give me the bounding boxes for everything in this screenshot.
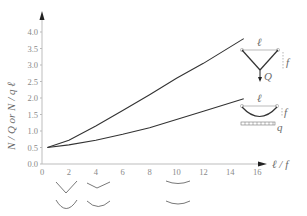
x-tick-label: 14: [226, 167, 235, 177]
x-axis-label: ℓ / f: [272, 158, 290, 170]
y-tick-label: 2.5: [27, 77, 38, 87]
y-tick-label: 2.0: [27, 93, 38, 103]
x-tick-label: 4: [94, 167, 99, 177]
x-tick-label: 6: [121, 167, 125, 177]
series-distributed-load-curve: [47, 99, 243, 148]
span-label-2: ℓ: [257, 92, 262, 104]
x-tick-label: 8: [147, 167, 151, 177]
truss-shape-l10-icon: [166, 181, 190, 184]
truss-shape-l2-icon: [56, 181, 77, 193]
y-tick-label: 3.5: [27, 44, 38, 54]
arch-shape-l4-icon: [87, 201, 110, 207]
rise-label-2: f: [284, 106, 289, 118]
distributed-load-label: q: [277, 121, 283, 133]
truss-shape-l4-icon: [87, 182, 110, 188]
x-tick-label: 12: [199, 167, 208, 177]
x-axis: 0246810121416: [40, 162, 267, 178]
y-tick-label: 0.5: [27, 143, 38, 153]
rise-label: f: [286, 56, 291, 68]
x-axis-arrow-icon: [258, 162, 267, 167]
x-tick-label: 16: [253, 167, 262, 177]
x-tick-label: 10: [172, 167, 181, 177]
y-tick-label: 3.0: [27, 60, 38, 70]
truss-diagram: ℓ Q f: [240, 36, 291, 82]
y-tick-label: 1.5: [27, 110, 38, 120]
load-arrow-icon: [258, 77, 262, 82]
shape-sketches: [56, 181, 190, 209]
arch-diagram: ℓ f q: [240, 92, 289, 133]
y-axis-label: N / Q or N / q ℓ: [5, 82, 17, 151]
x-tick-label: 2: [67, 167, 71, 177]
x-tick-label: 0: [40, 167, 44, 177]
span-label: ℓ: [257, 36, 262, 48]
y-tick-label: 1.0: [27, 126, 38, 136]
distributed-load-icon: [241, 122, 275, 125]
y-tick-label: 0.0: [27, 159, 38, 169]
y-axis: 0.00.51.01.52.02.53.03.54.0: [27, 11, 44, 169]
point-load-label: Q: [264, 70, 272, 82]
y-axis-arrow-icon: [40, 11, 45, 20]
y-tick-label: 4.0: [27, 27, 38, 37]
arch-shape-l10-icon: [166, 201, 190, 204]
chart: 0.00.51.01.52.02.53.03.54.0 024681012141…: [0, 0, 307, 216]
series-point-load-curve: [47, 39, 243, 148]
arch-shape-l2-icon: [56, 200, 77, 209]
